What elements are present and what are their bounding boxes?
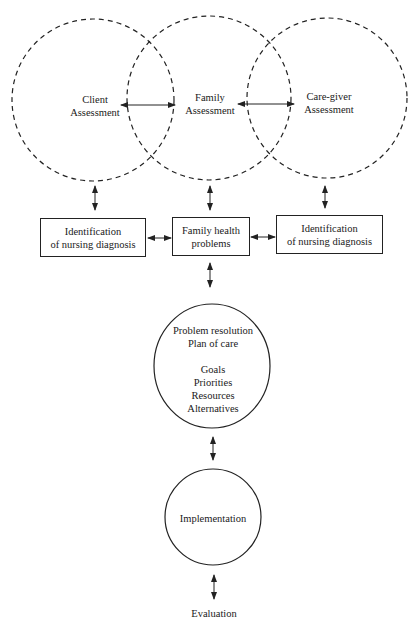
plan-item-priorities: Priorities	[155, 376, 271, 389]
caregiver-assessment-label: Care-giver Assessment	[286, 90, 372, 116]
client-line1: Client	[55, 93, 135, 106]
box-identification-left: Identification of nursing diagnosis	[40, 218, 146, 257]
plan-title1: Problem resolution	[155, 324, 271, 337]
plan-of-care-text: Problem resolution Plan of care Goals Pr…	[155, 324, 271, 415]
plan-item-goals: Goals	[155, 363, 271, 376]
plan-item-resources: Resources	[155, 389, 271, 402]
box-left-line1: Identification	[50, 225, 135, 238]
client-line2: Assessment	[55, 106, 135, 119]
box-right-line1: Identification	[287, 222, 372, 235]
box-center-line2: problems	[182, 237, 240, 250]
box-left-line2: of nursing diagnosis	[50, 238, 135, 251]
plan-spacer	[155, 350, 271, 363]
caregiver-line2: Assessment	[286, 103, 372, 116]
box-center-line1: Family health	[182, 224, 240, 237]
implementation-label: Implementation	[163, 512, 263, 525]
family-line1: Family	[170, 91, 250, 104]
plan-item-alternatives: Alternatives	[155, 402, 271, 415]
client-assessment-label: Client Assessment	[55, 93, 135, 119]
caregiver-line1: Care-giver	[286, 90, 372, 103]
box-family-health-problems: Family health problems	[172, 217, 250, 256]
box-identification-right: Identification of nursing diagnosis	[276, 215, 383, 254]
family-assessment-label: Family Assessment	[170, 91, 250, 117]
evaluation-label: Evaluation	[164, 607, 264, 620]
box-right-line2: of nursing diagnosis	[287, 235, 372, 248]
family-line2: Assessment	[170, 104, 250, 117]
plan-title2: Plan of care	[155, 337, 271, 350]
